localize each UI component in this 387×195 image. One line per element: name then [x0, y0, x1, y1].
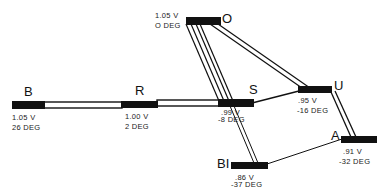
bus-angle-u: -16 DEG [297, 106, 328, 116]
bus-bar-b [12, 101, 45, 109]
bus-info-bi: .86 V -37 DEG [231, 174, 262, 188]
bus-label-r: R [135, 84, 144, 97]
bus-info-s: .99 V -8 DEG [218, 109, 245, 123]
bus-label-b: B [24, 85, 33, 98]
line-o-u [210, 24, 310, 88]
power-system-diagram: B 1.05 V 26 DEG R 1.00 V 2 DEG S .99 V -… [0, 0, 387, 195]
bus-info-a: .91 V -32 DEG [339, 147, 370, 167]
bus-voltage-a: .91 V [339, 147, 370, 157]
bus-bar-a [341, 136, 377, 143]
bus-bar-u [298, 86, 332, 93]
bus-angle-s: -8 DEG [218, 116, 245, 123]
bus-angle-b: 26 DEG [12, 123, 40, 133]
line-r-s [157, 100, 219, 106]
bus-voltage-b: 1.05 V [12, 113, 40, 123]
bus-voltage-u: .95 V [297, 96, 328, 106]
bus-angle-bi: -37 DEG [231, 181, 262, 188]
bus-label-bi: BI [217, 157, 229, 170]
bus-bar-o [186, 17, 221, 25]
bus-bar-s [218, 99, 254, 107]
bus-angle-r: 2 DEG [125, 122, 149, 132]
bus-info-r: 1.00 V 2 DEG [125, 112, 149, 132]
bus-bar-bi [231, 162, 268, 169]
bus-label-u: U [334, 79, 343, 92]
bus-label-o: O [222, 12, 232, 25]
bus-info-b: 1.05 V 26 DEG [12, 113, 40, 133]
bus-angle-o: O DEG [155, 21, 181, 31]
network-lines [0, 0, 387, 195]
line-b-r [44, 102, 122, 108]
bus-label-s: S [249, 83, 258, 96]
bus-voltage-r: 1.00 V [125, 112, 149, 122]
line-s-u [252, 91, 299, 103]
bus-info-o: 1.05 V O DEG [155, 11, 181, 31]
bus-voltage-o: 1.05 V [155, 11, 181, 21]
bus-label-a: A [331, 129, 340, 142]
bus-angle-a: -32 DEG [339, 157, 370, 167]
bus-bar-r [121, 101, 158, 108]
bus-info-u: .95 V -16 DEG [297, 96, 328, 116]
